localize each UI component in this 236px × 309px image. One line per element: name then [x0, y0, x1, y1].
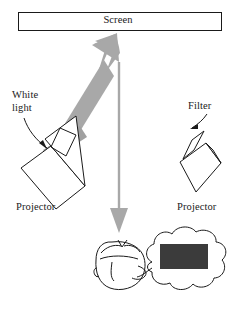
projector-right-label: Projector	[177, 201, 216, 213]
screen-label: Screen	[0, 14, 236, 26]
viewer-sightline-arrow	[110, 62, 128, 233]
filter-leader-arrow-icon	[190, 114, 207, 129]
white-light-label: White light	[12, 88, 38, 114]
white-light-leader-arrow-icon	[24, 118, 47, 149]
figure-canvas: Screen White light Filter Projector Proj…	[0, 0, 236, 309]
thought-bubble-icon	[137, 227, 226, 290]
diagram-vector-layer	[0, 0, 236, 309]
projector-right-icon	[180, 131, 221, 192]
filter-label: Filter	[188, 100, 211, 112]
projector-left-icon	[21, 116, 85, 209]
perceived-color-patch	[160, 244, 208, 269]
projector-left-label: Projector	[16, 201, 55, 213]
observer-head-icon	[94, 240, 146, 290]
